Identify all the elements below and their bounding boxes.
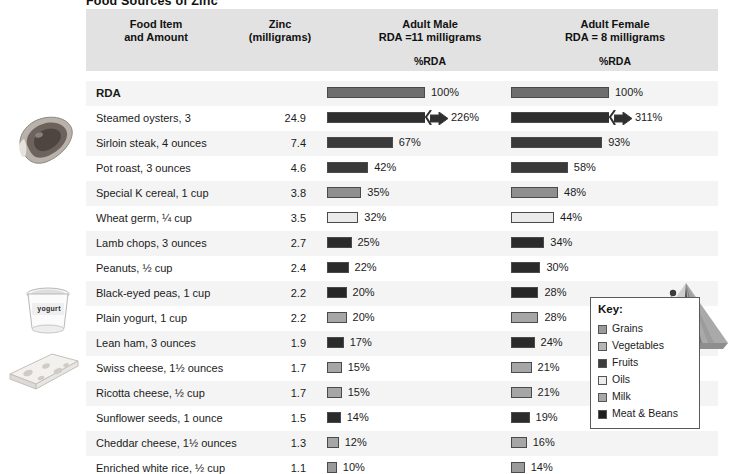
row-pct-label-male: 226% [451, 111, 479, 123]
row-pct-label-female: 28% [544, 286, 566, 298]
bar-fill [511, 87, 609, 98]
row-food-label: Steamed oysters, 3 [96, 112, 191, 124]
row-pct-label-female: 24% [541, 336, 563, 348]
bar-arrowhead-icon [614, 111, 630, 124]
table-row: Cheddar cheese, 1½ ounces1.312%16% [86, 431, 718, 456]
bar-fill [327, 212, 358, 223]
row-zinc-value: 2.7 [226, 237, 306, 249]
bar-fill [511, 137, 602, 148]
row-food-label: Peanuts, ½ cup [96, 262, 172, 274]
row-pct-label-male: 25% [358, 236, 380, 248]
table-row: Steamed oysters, 324.9226%311% [86, 106, 718, 131]
row-pct-label-male: 12% [345, 436, 367, 448]
row-pct-label-female: 311% [635, 111, 662, 123]
bar-fill [511, 312, 538, 323]
row-pct-label-male: 32% [364, 211, 386, 223]
bar-fill [511, 337, 535, 348]
bar-fill [327, 237, 352, 248]
bar-fill [511, 437, 527, 448]
bar-fill [511, 387, 532, 398]
legend-item-label: Milk [612, 390, 631, 402]
table-row: Wheat germ, ¼ cup3.532%44% [86, 206, 718, 231]
row-pct-label-female: 100% [615, 86, 643, 98]
yogurt-photo: yogurt [22, 285, 74, 341]
row-food-label: Lamb chops, 3 ounces [96, 237, 207, 249]
table-row: Special K cereal, 1 cup3.835%48% [86, 181, 718, 206]
row-pct-label-male: 15% [348, 361, 370, 373]
column-header-adult-female-line2: RDA = 8 milligrams [530, 31, 700, 44]
row-food-label: Sirloin steak, 4 ounces [96, 137, 207, 149]
row-zinc-value: 1.3 [226, 437, 306, 449]
legend-item-label: Vegetables [612, 339, 664, 351]
legend-item-label: Meat & Beans [612, 407, 678, 419]
legend-item-label: Fruits [612, 356, 638, 368]
row-food-label: Cheddar cheese, 1½ ounces [96, 437, 237, 449]
table-row: Sirloin steak, 4 ounces7.467%93% [86, 131, 718, 156]
row-zinc-value: 4.6 [226, 162, 306, 174]
bar-fill [511, 237, 544, 248]
bar-fill [327, 387, 342, 398]
legend-swatch-icon [598, 410, 607, 419]
column-header-adult-male: Adult Male RDA =11 milligrams [345, 18, 515, 44]
row-food-label: RDA [96, 87, 121, 99]
row-food-label: Special K cereal, 1 cup [96, 187, 209, 199]
table-row: Enriched white rice, ½ cup1.110%14% [86, 456, 718, 474]
bar-fill [327, 287, 347, 298]
row-food-label: Pot roast, 3 ounces [96, 162, 191, 174]
column-subheader-female-pct-rda: %RDA [530, 55, 700, 67]
legend-key-box: Key: GrainsVegetablesFruitsOilsMilkMeat … [590, 297, 700, 429]
row-pct-label-male: 67% [399, 136, 421, 148]
row-pct-label-female: 58% [574, 161, 596, 173]
bar-fill [327, 337, 344, 348]
cheese-photo [6, 348, 82, 396]
table-row: Pot roast, 3 ounces4.642%58% [86, 156, 718, 181]
bar-fill [327, 362, 342, 373]
row-pct-label-male: 22% [355, 261, 377, 273]
row-pct-label-female: 93% [608, 136, 630, 148]
row-zinc-value: 2.4 [226, 262, 306, 274]
legend-item-label: Oils [612, 373, 630, 385]
column-header-food-item-line1: Food Item [96, 18, 216, 31]
column-subheader-male-pct-rda: %RDA [345, 55, 515, 67]
row-pct-label-male: 14% [347, 411, 369, 423]
bar-fill [327, 462, 337, 473]
row-pct-label-male: 100% [431, 86, 459, 98]
table-row: Peanuts, ½ cup2.422%30% [86, 256, 718, 281]
bar-fill [511, 362, 532, 373]
row-pct-label-male: 17% [350, 336, 372, 348]
row-food-label: Wheat germ, ¼ cup [96, 212, 192, 224]
legend-swatch-icon [598, 393, 607, 402]
row-pct-label-female: 44% [560, 211, 582, 223]
bar-fill [327, 187, 361, 198]
row-pct-label-male: 42% [374, 161, 396, 173]
row-pct-label-female: 30% [546, 261, 568, 273]
bar-fill [327, 137, 393, 148]
table-row: RDA100%100% [86, 81, 718, 106]
row-pct-label-female: 34% [550, 236, 572, 248]
row-pct-label-female: 21% [538, 386, 560, 398]
bar-fill [511, 212, 554, 223]
row-pct-label-male: 10% [343, 461, 365, 473]
bar-fill [511, 262, 540, 273]
bar-fill [327, 412, 341, 423]
column-header-adult-male-line1: Adult Male [345, 18, 515, 31]
row-food-label: Lean ham, 3 ounces [96, 337, 196, 349]
bar-arrowhead-icon [430, 111, 446, 124]
column-header-adult-male-line2: RDA =11 milligrams [345, 31, 515, 44]
bar-fill [327, 112, 425, 123]
column-header-food-item-line2: and Amount [96, 31, 216, 44]
legend-title: Key: [598, 303, 623, 315]
row-pct-label-male: 15% [348, 386, 370, 398]
row-pct-label-male: 35% [367, 186, 389, 198]
bar-fill [511, 462, 525, 473]
row-zinc-value: 3.8 [226, 187, 306, 199]
row-zinc-value: 1.5 [226, 412, 306, 424]
column-header-zinc: Zinc (milligrams) [225, 18, 335, 44]
legend-swatch-icon [598, 342, 607, 351]
page-title: Food Sources of Zinc [86, 0, 218, 8]
row-pct-label-male: 20% [353, 286, 375, 298]
row-pct-label-female: 19% [536, 411, 558, 423]
row-food-label: Swiss cheese, 1½ ounces [96, 362, 223, 374]
bar-fill [511, 412, 530, 423]
row-zinc-value: 1.7 [226, 362, 306, 374]
